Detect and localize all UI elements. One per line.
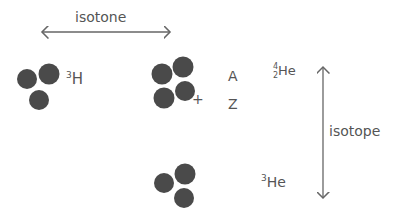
isotope-label: isotope bbox=[329, 123, 380, 139]
isotone-label: isotone bbox=[75, 9, 126, 25]
h3-label: 3H bbox=[66, 70, 83, 88]
plus-sign: + bbox=[192, 91, 204, 107]
diagram-canvas bbox=[0, 0, 400, 218]
he4-nucleus bbox=[152, 57, 196, 109]
mass-number-label: A bbox=[228, 68, 238, 84]
atomic-number-label: Z bbox=[228, 96, 238, 112]
he3-nucleus bbox=[154, 164, 196, 209]
he3-label: 3He bbox=[261, 173, 286, 190]
he4-label: 42He bbox=[273, 62, 296, 80]
h3-nucleus bbox=[17, 64, 60, 111]
